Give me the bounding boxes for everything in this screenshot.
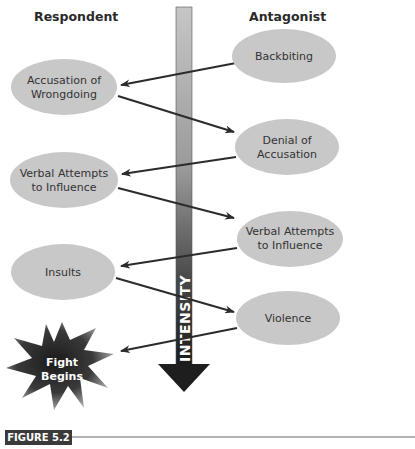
- node-verbal-right-label-line1: Verbal Attempts: [246, 225, 335, 238]
- node-verbal-left: Verbal Attempts to Influence: [10, 152, 118, 208]
- node-verbal-left-label-line2: to Influence: [31, 181, 96, 194]
- node-backbiting: Backbiting: [232, 29, 336, 83]
- intensity-arrowhead-icon: [158, 364, 210, 392]
- figure-caption: FIGURE 5.2: [5, 430, 415, 445]
- node-verbal-right: Verbal Attempts to Influence: [237, 211, 343, 267]
- conflict-escalation-diagram: Respondent Antagonist INTENSITY Backbiti…: [0, 0, 415, 449]
- antagonist-header: Antagonist: [249, 9, 326, 24]
- node-violence-label: Violence: [265, 312, 312, 325]
- node-insults-label: Insults: [45, 266, 81, 279]
- node-backbiting-label: Backbiting: [255, 50, 313, 63]
- node-verbal-right-label-line2: to Influence: [257, 239, 322, 252]
- figure-label: FIGURE 5.2: [7, 432, 70, 443]
- node-fight-begins: Fight Begins: [6, 322, 114, 410]
- node-denial-label-line1: Denial of: [262, 134, 312, 147]
- arrow-insults-to-violence: [116, 278, 234, 312]
- node-denial-label-line2: Accusation: [257, 148, 317, 161]
- node-accusation: Accusation of Wrongdoing: [11, 59, 117, 115]
- node-violence: Violence: [236, 291, 340, 345]
- node-accusation-label-line2: Wrongdoing: [31, 88, 97, 101]
- respondent-header: Respondent: [34, 9, 118, 24]
- node-verbal-left-label-line1: Verbal Attempts: [20, 167, 109, 180]
- node-insults: Insults: [11, 244, 115, 300]
- intensity-label: INTENSITY: [177, 274, 193, 362]
- fight-begins-label-line1: Fight: [46, 356, 78, 369]
- fight-begins-label-line2: Begins: [41, 370, 83, 383]
- node-accusation-label-line1: Accusation of: [27, 74, 102, 87]
- node-denial: Denial of Accusation: [235, 119, 339, 175]
